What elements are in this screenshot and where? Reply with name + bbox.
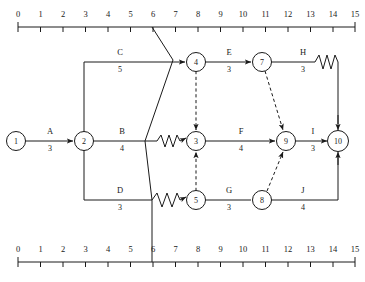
node-8-label: 8 (260, 196, 264, 205)
top-axis-label: 14 (329, 9, 338, 19)
activity-duration-J: 4 (301, 203, 305, 212)
node-5[interactable]: 5 (187, 191, 206, 210)
node-2[interactable]: 2 (75, 132, 94, 151)
bottom-axis-label: 1 (38, 244, 42, 254)
node-4-label: 4 (194, 58, 198, 67)
top-axis-label: 4 (106, 9, 111, 19)
activity-label-G: G (226, 185, 232, 195)
node-4[interactable]: 4 (187, 53, 206, 72)
bottom-axis-label: 7 (173, 244, 177, 254)
bottom-axis-label: 0 (16, 244, 20, 254)
top-axis-label: 11 (261, 9, 269, 19)
top-axis: 0 1 2 3 4 5 6 7 8 9 10 11 12 13 14 15 (16, 9, 359, 32)
network-diagram-canvas: 0 1 2 3 4 5 6 7 8 9 10 11 12 13 14 15 (0, 0, 365, 282)
bottom-axis-label: 8 (196, 244, 200, 254)
bottom-axis-label: 5 (128, 244, 132, 254)
node-2-label: 2 (82, 137, 86, 146)
node-9-label: 9 (284, 137, 288, 146)
activity-label-E: E (226, 47, 231, 57)
node-3-label: 3 (194, 137, 198, 146)
bottom-axis-label: 11 (261, 244, 269, 254)
edge-D-arrow (180, 197, 186, 200)
activity-duration-A: 3 (48, 144, 52, 153)
bottom-axis-label: 3 (83, 244, 87, 254)
network-diagram: 0 1 2 3 4 5 6 7 8 9 10 11 12 13 14 15 (0, 0, 365, 282)
activity-label-A: A (47, 126, 54, 136)
node-7[interactable]: 7 (253, 53, 272, 72)
edges (25, 55, 338, 207)
bottom-axis-label: 14 (329, 244, 338, 254)
nodes: 1 2 3 4 5 7 8 (7, 53, 349, 210)
node-1[interactable]: 1 (7, 132, 26, 151)
node-7-label: 7 (260, 58, 264, 67)
activity-duration-F: 4 (239, 144, 243, 153)
activity-label-H: H (300, 47, 306, 57)
bottom-axis-label: 12 (284, 244, 293, 254)
activity-duration-I: 3 (311, 144, 315, 153)
top-axis-label: 9 (218, 9, 222, 19)
activity-label-F: F (239, 126, 244, 136)
activity-label-D: D (117, 185, 123, 195)
top-axis-label: 2 (61, 9, 65, 19)
top-axis-label: 15 (351, 9, 360, 19)
bottom-axis-label: 2 (61, 244, 65, 254)
bottom-axis-label: 9 (218, 244, 222, 254)
node-9[interactable]: 9 (277, 132, 296, 151)
top-axis-label: 8 (196, 9, 200, 19)
edge-B-arrow (180, 138, 186, 141)
top-axis-label: 1 (38, 9, 42, 19)
activity-duration-E: 3 (227, 65, 231, 74)
activity-duration-C: 5 (118, 65, 122, 74)
node-10-label: 10 (334, 137, 342, 146)
activity-label-C: C (117, 47, 123, 57)
top-axis-label: 6 (151, 9, 155, 19)
activity-label-I: I (312, 126, 315, 136)
activity-duration-G: 3 (227, 203, 231, 212)
activity-duration-D: 3 (118, 203, 122, 212)
dummy-edge-7-9 (265, 71, 283, 130)
edge-D-zigzag (152, 193, 180, 207)
activity-label-B: B (119, 126, 125, 136)
node-3[interactable]: 3 (187, 132, 206, 151)
bottom-axis-label: 15 (351, 244, 360, 254)
node-10[interactable]: 10 (328, 131, 349, 152)
top-axis-label: 10 (239, 9, 248, 19)
activity-duration-B: 4 (120, 144, 124, 153)
edge-C-path (84, 62, 168, 132)
top-axis-label: 0 (16, 9, 20, 19)
bottom-axis-label: 13 (306, 244, 315, 254)
activity-labels: A 3 B 4 C 5 D 3 E 3 F 4 G 3 H 3 I 3 J 4 (47, 47, 315, 212)
top-axis-label: 3 (83, 9, 87, 19)
node-1-label: 1 (14, 137, 18, 146)
edge-H-zigzag (315, 55, 338, 69)
activity-duration-H: 3 (301, 65, 305, 74)
node-8[interactable]: 8 (253, 191, 272, 210)
top-axis-label: 12 (284, 9, 293, 19)
top-axis-label: 7 (173, 9, 177, 19)
activity-label-J: J (301, 185, 305, 195)
edge-B-zigzag (157, 135, 180, 147)
top-axis-label: 13 (306, 9, 315, 19)
bottom-axis-label: 4 (106, 244, 111, 254)
bottom-axis-label: 10 (239, 244, 248, 254)
top-axis-label: 5 (128, 9, 132, 19)
node-5-label: 5 (194, 196, 198, 205)
dummy-edge-8-9 (267, 152, 283, 191)
bottom-axis: 0 1 2 3 4 5 6 7 8 9 10 11 12 13 14 15 (16, 244, 359, 267)
